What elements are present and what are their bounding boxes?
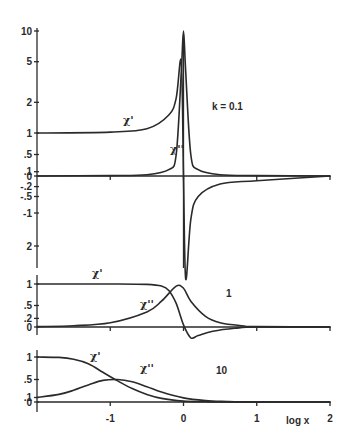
panel3-y-tick-label: .5 (24, 374, 33, 385)
panel3-y-tick-label: 1 (26, 352, 32, 363)
panel1-y-tick-label: 10 (21, 26, 33, 37)
panel1-y-tick-label: 0 (26, 171, 32, 182)
x-tick-label: 2 (327, 413, 333, 424)
x-tick-label: 0 (181, 413, 187, 424)
panel1-neg-y-tick-label: -.5 (20, 191, 32, 202)
panel3-series-chi-prime (37, 357, 330, 402)
panel2-y-tick-label: 0 (26, 322, 32, 333)
panel1-neg-y-tick-label: -1 (23, 208, 32, 219)
chart-figure: 10521.5.10-.2-.5-121.5.201.5.10χ'χ''χ'χ'… (0, 0, 350, 442)
x-axis-label: log x (286, 415, 310, 426)
panel3-y-tick-label: 0 (26, 397, 32, 408)
panel2-curve-label: χ'' (140, 298, 154, 311)
panel2-y-tick-label: .5 (24, 300, 33, 311)
panel1-y-tick-label: 5 (26, 56, 32, 67)
panel1-curve-label: χ' (123, 114, 134, 127)
panel2-k-annotation: 1 (226, 288, 232, 299)
panel1-k-annotation: k = 0.1 (212, 101, 243, 112)
x-tick-label: 1 (254, 413, 260, 424)
panel3-curve-label: χ'' (140, 362, 154, 375)
panel3-curve-label: χ' (90, 350, 101, 363)
panel3-k-annotation: 10 (216, 365, 228, 376)
panel1-y-tick-label: 1 (26, 128, 32, 139)
panel3-series-chi-double-prime (37, 379, 330, 402)
panel2-curve-label: χ' (92, 267, 103, 280)
labels-group: 10521.5.10-.2-.5-121.5.201.5.10χ'χ''χ'χ'… (20, 26, 333, 427)
panel1-neg-y-tick-label: 2 (26, 241, 32, 252)
panel2-y-tick-label: 1 (26, 279, 32, 290)
panel1-y-tick-label: 2 (26, 97, 32, 108)
panel1-curve-label: χ'' (170, 143, 184, 156)
panel1-y-tick-label: .5 (24, 149, 33, 160)
panel2-series-chi-double-prime (37, 285, 330, 327)
x-tick-label: -1 (106, 413, 115, 424)
